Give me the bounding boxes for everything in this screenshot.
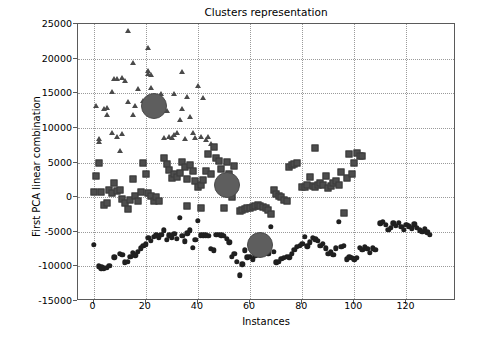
data-point-circle (310, 235, 315, 240)
data-point-square (270, 186, 277, 193)
data-point-square (220, 205, 227, 212)
gridline-horizontal (78, 232, 454, 233)
data-point-circle (120, 252, 125, 257)
data-point-square (218, 166, 225, 173)
gridline-horizontal (78, 93, 454, 94)
data-point-square (171, 170, 178, 177)
data-point-circle (268, 224, 273, 229)
data-point-circle (313, 237, 318, 242)
data-point-triangle (125, 99, 131, 104)
data-point-square (317, 180, 324, 187)
data-point-square (280, 196, 287, 203)
data-point-square (103, 200, 110, 207)
data-point-triangle (205, 134, 211, 139)
data-point-square (275, 192, 282, 199)
data-point-square (205, 151, 212, 158)
data-point-circle (195, 218, 200, 223)
x-tick-label: 20 (139, 300, 151, 311)
cluster-centroid-marker (214, 172, 240, 198)
data-point-circle (336, 219, 341, 224)
data-point-triangle (184, 94, 190, 99)
data-point-circle (117, 251, 122, 256)
data-point-circle (250, 257, 255, 262)
data-point-triangle (192, 135, 198, 140)
data-point-square (114, 187, 121, 194)
data-point-triangle (119, 131, 125, 136)
data-point-circle (412, 221, 417, 226)
data-point-square (127, 196, 134, 203)
data-point-square (121, 199, 128, 206)
data-point-square (283, 198, 290, 205)
data-point-circle (391, 221, 396, 226)
data-point-circle (292, 247, 297, 252)
y-tick-label: 25000 (42, 18, 72, 29)
data-point-square (95, 160, 102, 167)
data-point-circle (161, 228, 166, 233)
data-point-triangle (179, 69, 185, 74)
data-point-circle (91, 242, 96, 247)
data-point-circle (240, 262, 245, 267)
data-point-triangle (190, 130, 196, 135)
data-point-square (320, 181, 327, 188)
y-tick-mark (73, 58, 77, 59)
data-point-square (288, 162, 295, 169)
data-point-square (278, 194, 285, 201)
data-point-circle (143, 242, 148, 247)
page-title: Clusters representation (77, 6, 455, 18)
data-point-circle (112, 255, 117, 260)
gridline-horizontal (78, 163, 454, 164)
data-point-square (338, 168, 345, 175)
data-point-triangle (119, 75, 125, 80)
data-point-square (200, 176, 207, 183)
data-point-circle (258, 246, 263, 251)
data-point-circle (352, 257, 357, 262)
data-point-circle (318, 243, 323, 248)
data-point-circle (271, 249, 276, 254)
data-point-circle (263, 250, 268, 255)
data-point-circle (344, 257, 349, 262)
data-point-triangle (140, 98, 146, 103)
data-point-square (168, 174, 175, 181)
data-point-circle (138, 246, 143, 251)
data-point-circle (127, 254, 132, 259)
data-point-square (314, 181, 321, 188)
y-tick-mark (73, 196, 77, 197)
data-point-square (140, 159, 147, 166)
data-point-triangle (145, 45, 151, 50)
y-tick-label: -10000 (38, 260, 72, 271)
data-point-circle (346, 255, 351, 260)
data-point-square (356, 152, 363, 159)
data-point-circle (339, 244, 344, 249)
data-point-circle (99, 266, 104, 271)
data-point-triangle (109, 89, 115, 94)
data-point-circle (216, 232, 221, 237)
data-point-circle (200, 233, 205, 238)
data-point-triangle (195, 83, 201, 88)
data-point-circle (401, 227, 406, 232)
data-point-circle (383, 222, 388, 227)
x-tick-label: 60 (243, 300, 255, 311)
data-point-square (98, 189, 105, 196)
data-point-circle (289, 251, 294, 256)
gridline-vertical (94, 24, 95, 299)
data-point-square (228, 194, 235, 201)
gridline-vertical (250, 24, 251, 299)
data-point-triangle (177, 117, 183, 122)
x-tick-label: 100 (344, 300, 362, 311)
data-point-square (150, 198, 157, 205)
data-point-square (244, 205, 251, 212)
data-point-square (101, 202, 108, 209)
data-point-triangle (203, 137, 209, 142)
x-tick-label: 40 (191, 300, 203, 311)
data-point-triangle (174, 130, 180, 135)
data-point-triangle (171, 132, 177, 137)
data-point-square (108, 189, 115, 196)
data-point-square (351, 159, 358, 166)
data-point-triangle (166, 134, 172, 139)
data-point-square (291, 160, 298, 167)
data-point-circle (169, 235, 174, 240)
data-point-circle (154, 233, 159, 238)
data-point-triangle (153, 101, 159, 106)
data-point-square (163, 160, 170, 167)
data-point-circle (180, 233, 185, 238)
